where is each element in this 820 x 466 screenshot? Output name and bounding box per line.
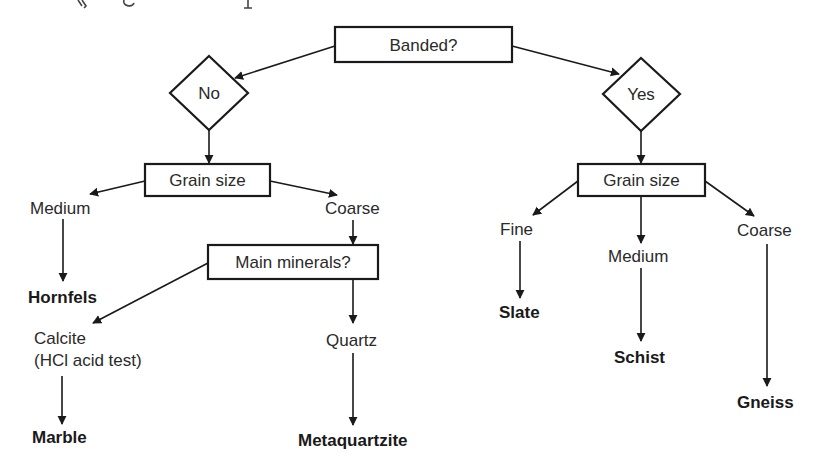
edge-banded-to-yes [512, 46, 619, 74]
edge-mainminerals-to-calcite [93, 263, 208, 323]
node-banded-label: Banded? [389, 36, 457, 55]
node-no-label: No [198, 84, 220, 103]
result-hornfels: Hornfels [28, 288, 97, 307]
edge-grainsize-to-fine [533, 181, 578, 215]
option-medium-left: Medium [30, 199, 90, 218]
result-schist: Schist [614, 348, 665, 367]
node-grainsize-left-label: Grain size [169, 171, 246, 190]
option-coarse-left: Coarse [325, 199, 380, 218]
node-main-minerals: Main minerals? [208, 245, 378, 279]
node-main-minerals-label: Main minerals? [235, 253, 350, 272]
metamorphic-rock-flowchart: Banded? No Yes Grain size Grain size Mai… [0, 0, 820, 466]
edge-banded-to-no [235, 46, 335, 78]
node-grainsize-right-label: Grain size [603, 171, 680, 190]
edge-grainsize-to-coarse-right [705, 181, 754, 216]
edge-grainsize-to-medium [90, 181, 145, 194]
result-metaquartzite: Metaquartzite [298, 431, 408, 450]
option-calcite-note: (HCl acid test) [34, 351, 142, 370]
edge-grainsize-to-coarse [270, 181, 337, 195]
option-medium-right: Medium [608, 247, 668, 266]
node-yes-label: Yes [627, 85, 655, 104]
cropped-caption-fragment [78, 0, 252, 8]
node-yes: Yes [603, 58, 680, 131]
result-marble: Marble [32, 428, 87, 447]
result-slate: Slate [499, 303, 540, 322]
result-gneiss: Gneiss [737, 393, 794, 412]
option-fine: Fine [500, 220, 533, 239]
option-quartz: Quartz [326, 331, 377, 350]
node-no: No [170, 56, 248, 130]
option-calcite: Calcite [34, 329, 86, 348]
node-grainsize-left: Grain size [145, 164, 270, 196]
option-coarse-right: Coarse [737, 221, 792, 240]
node-grainsize-right: Grain size [578, 164, 705, 196]
node-banded: Banded? [335, 27, 512, 62]
